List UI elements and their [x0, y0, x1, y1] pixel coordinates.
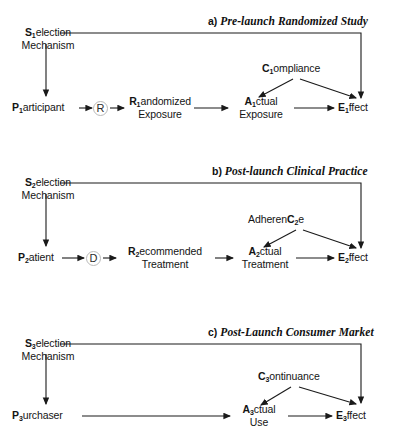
mediator-a-post: ompliance [273, 62, 320, 74]
mediator-b-post: e [298, 213, 304, 225]
node-actual-c: A3ctual Use [228, 404, 290, 428]
mediator-b-pre: Adheren [248, 213, 287, 225]
panel-b-tag: b) [212, 165, 222, 177]
node-unit-a: P1articipant [12, 102, 64, 115]
node-assigned-a: R1andomized Exposure [122, 96, 198, 120]
node-selection-mechanism-b: S2election Mechanism [12, 177, 84, 201]
node-outcome-a: E1ffect [338, 102, 368, 115]
panel-c-tag: c) [208, 326, 217, 338]
panel-c-title: c) Post-Launch Consumer Market [208, 326, 374, 338]
outcome-a-sub: 1 [345, 107, 349, 114]
unit-c-sub: 3 [19, 415, 23, 422]
node-actual-b: A2ctual Treatment [232, 246, 298, 270]
edge-mediator-to-outcome [299, 387, 356, 404]
assigned-a-rest: andomized [140, 95, 190, 107]
assigned-b-line2: Treatment [142, 258, 189, 270]
unit-a-letter: P [12, 101, 19, 113]
edge-selection-to-effect [60, 183, 361, 248]
selection-b-sub: 2 [32, 182, 36, 189]
panel-a-title: a) Pre-launch Randomized Study [208, 15, 368, 27]
panel-c-title-text: Post-Launch Consumer Market [220, 326, 374, 338]
selection-a-rest: election [36, 26, 71, 38]
assigned-b-sub: 2 [136, 251, 140, 258]
selection-b-rest: election [36, 176, 71, 188]
randomization-node-a: R [93, 101, 108, 116]
selection-b-line2: Mechanism [22, 189, 75, 201]
outcome-b-sub: 2 [345, 257, 349, 264]
panel-post-launch-clinical-practice: b) Post-launch Clinical Practice S2elect… [0, 150, 398, 300]
unit-c-rest: urchaser [23, 409, 63, 421]
outcome-c-rest: ffect [347, 409, 366, 421]
node-mediator-b: AdherenC2e [248, 214, 304, 227]
outcome-b-letter: E [338, 251, 345, 263]
node-unit-b: P2atient [18, 252, 54, 265]
actual-a-sub: 1 [252, 101, 256, 108]
panel-post-launch-consumer-market: c) Post-Launch Consumer Market S3electio… [0, 300, 398, 441]
assigned-a-sub: 1 [137, 101, 141, 108]
unit-b-rest: atient [29, 251, 54, 263]
panel-b-title-text: Post-launch Clinical Practice [225, 165, 368, 177]
node-outcome-b: E2ffect [338, 252, 368, 265]
selection-a-line2: Mechanism [22, 39, 75, 51]
prescriber-node-b-glyph: D [86, 251, 101, 266]
assigned-b-rest: ecommended [139, 245, 202, 257]
node-outcome-c: E3ffect [336, 410, 366, 423]
node-mediator-a: C1ompliance [262, 63, 320, 76]
selection-c-sub: 3 [32, 343, 36, 350]
actual-b-rest: ctual [260, 245, 282, 257]
prescriber-node-b: D [86, 251, 101, 266]
outcome-c-sub: 3 [343, 415, 347, 422]
mediator-c-post: ontinuance [269, 370, 319, 382]
mediator-c-sub: 3 [265, 376, 269, 383]
node-actual-a: A1ctual Exposure [228, 96, 294, 120]
actual-c-sub: 3 [250, 409, 254, 416]
unit-c-letter: P [12, 409, 19, 421]
node-selection-mechanism-c: S3election Mechanism [12, 338, 84, 362]
node-mediator-c: C3ontinuance [258, 371, 320, 384]
unit-a-sub: 1 [19, 107, 23, 114]
selection-c-rest: election [36, 337, 71, 349]
selection-a-letter: S [25, 26, 32, 38]
node-unit-c: P3urchaser [12, 410, 63, 423]
unit-b-sub: 2 [25, 257, 29, 264]
mediator-b-sub: 2 [294, 219, 298, 226]
mediator-a-sub: 1 [269, 68, 273, 75]
panel-b-title: b) Post-launch Clinical Practice [212, 165, 368, 177]
actual-c-rest: ctual [254, 403, 276, 415]
unit-a-rest: articipant [23, 101, 65, 113]
panel-a-tag: a) [208, 15, 217, 27]
assigned-a-line2: Exposure [138, 108, 182, 120]
selection-a-sub: 1 [32, 32, 36, 39]
panel-a-title-text: Pre-launch Randomized Study [220, 15, 368, 27]
actual-c-letter: A [243, 403, 250, 415]
assigned-a-letter: R [129, 95, 136, 107]
actual-b-line2: Treatment [242, 258, 289, 270]
selection-c-line2: Mechanism [22, 350, 75, 362]
actual-a-rest: ctual [256, 95, 278, 107]
outcome-b-rest: ffect [349, 251, 368, 263]
outcome-a-rest: ffect [349, 101, 368, 113]
actual-a-letter: A [245, 95, 252, 107]
actual-b-letter: A [249, 245, 256, 257]
selection-c-letter: S [25, 337, 32, 349]
node-selection-mechanism-a: S1election Mechanism [12, 27, 84, 51]
assigned-b-letter: R [128, 245, 135, 257]
edge-mediator-to-outcome [303, 230, 356, 248]
outcome-a-letter: E [338, 101, 345, 113]
outcome-c-letter: E [336, 409, 343, 421]
actual-a-line2: Exposure [239, 108, 283, 120]
unit-b-letter: P [18, 251, 25, 263]
randomization-node-a-glyph: R [93, 101, 108, 116]
actual-b-sub: 2 [256, 251, 260, 258]
panel-pre-launch-randomized-study: a) Pre-launch Randomized Study S1electio… [0, 0, 398, 150]
edge-mediator-to-outcome [300, 79, 356, 98]
node-assigned-b: R2ecommended Treatment [114, 246, 216, 270]
actual-c-line2: Use [250, 416, 268, 428]
selection-b-letter: S [25, 176, 32, 188]
